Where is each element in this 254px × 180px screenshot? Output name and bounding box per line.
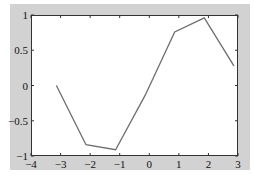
y-tick-label: 0.5	[14, 44, 28, 56]
y-tick-label: 0	[23, 80, 29, 92]
y-tick-label: −1	[16, 150, 28, 162]
x-tick-label: 0	[147, 158, 153, 170]
x-tick-label: 3	[235, 158, 241, 170]
y-axis-tick-labels: −1−0.500.51	[8, 9, 28, 162]
x-axis-tick-labels: −4−3−2−10123	[25, 158, 241, 170]
y-tick-label: 1	[23, 9, 29, 21]
plot-area	[31, 15, 238, 156]
x-tick-label: −2	[84, 158, 96, 170]
x-tick-label: 1	[176, 158, 182, 170]
x-tick-label: −1	[114, 158, 126, 170]
line-chart: −4−3−2−10123 −1−0.500.51	[0, 0, 254, 180]
y-tick-label: −0.5	[8, 115, 28, 127]
x-tick-label: 2	[206, 158, 212, 170]
x-tick-label: −3	[55, 158, 67, 170]
